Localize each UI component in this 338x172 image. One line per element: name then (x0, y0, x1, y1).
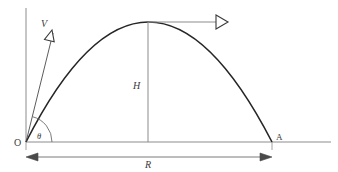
landing-point-label: A (276, 132, 283, 142)
range-label: R (144, 159, 151, 170)
apex-velocity-arrowhead-icon (216, 15, 228, 29)
range-right-arrowhead-icon (260, 153, 272, 161)
initial-velocity-vector-line (26, 33, 53, 142)
launch-angle-label: θ (37, 131, 41, 141)
max-height-label: H (132, 80, 141, 91)
range-left-arrowhead-icon (26, 153, 38, 161)
trajectory-curve (26, 22, 272, 142)
velocity-arrowhead-icon (44, 29, 56, 42)
projectile-motion-figure: O θ V H R A (0, 0, 338, 172)
projectile-diagram-svg: O θ V H R A (0, 0, 338, 172)
origin-label: O (14, 137, 21, 148)
initial-velocity-label: V (41, 18, 49, 29)
launch-angle-arc (32, 117, 52, 142)
